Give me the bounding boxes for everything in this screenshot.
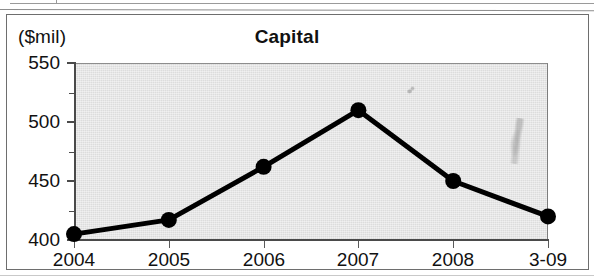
data-point-marker (256, 159, 272, 175)
data-point-marker (350, 102, 366, 118)
series-line-capital (74, 110, 548, 234)
data-point-marker (445, 173, 461, 189)
page-rule-bottom (0, 275, 594, 276)
data-point-marker (540, 208, 556, 224)
data-series-capital (0, 0, 594, 278)
data-point-marker (66, 226, 82, 242)
series-markers-capital (66, 102, 556, 242)
chart-plot: 550500450400 200420052006200720083-09 (0, 0, 594, 278)
data-point-marker (161, 212, 177, 228)
